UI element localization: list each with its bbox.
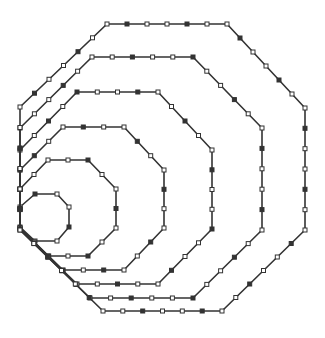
nested-octagons-diagram [0,0,325,338]
edge-marker [145,22,149,26]
edge-marker [251,50,255,54]
edge-marker [47,139,51,143]
edge-marker [62,64,66,68]
edge-marker [156,282,160,286]
edge-marker [55,239,59,243]
edge-marker [197,241,201,245]
octagon-outline [20,57,262,298]
edge-marker [114,207,118,211]
edge-marker [260,208,264,212]
edge-marker [136,90,140,94]
edge-marker [95,282,99,286]
octagon-outline [20,127,164,270]
edge-marker [105,22,109,26]
edge-marker [109,296,113,300]
edge-marker [205,22,209,26]
edge-marker [75,90,79,94]
edge-marker [18,126,22,130]
edge-marker [61,125,65,129]
edge-marker [67,205,71,209]
edge-marker [232,98,236,102]
edge-marker [170,105,174,109]
edge-marker [100,173,104,177]
edge-marker [76,69,80,73]
edge-marker [260,228,264,232]
edge-marker [32,112,36,116]
edge-marker [102,125,106,129]
edge-marker [46,158,50,162]
edge-marker [183,119,187,123]
edge-marker [76,50,80,54]
edge-marker [262,269,266,273]
edge-marker [100,240,104,244]
edge-marker [303,187,307,191]
edge-marker [87,296,91,300]
edge-marker [200,309,204,313]
edge-marker [32,242,36,246]
edge-marker [162,207,166,211]
edge-marker [114,226,118,230]
edge-marker [47,77,51,81]
edge-marker [219,83,223,87]
edge-marker [55,192,59,196]
edge-marker [122,125,126,129]
edge-marker [303,147,307,151]
edge-marker [149,240,153,244]
edge-marker [248,282,252,286]
edge-marker [180,309,184,313]
edge-marker [264,64,268,68]
edge-marker [149,154,153,158]
edge-marker [234,296,238,300]
edge-marker [135,139,139,143]
edge-marker [219,269,223,273]
edge-marker [18,228,22,232]
edge-marker [18,187,22,191]
edge-marker [86,158,90,162]
edge-marker [81,268,85,272]
edge-marker [91,36,95,40]
edge-marker [275,255,279,259]
edge-marker [18,167,22,171]
edge-marker [260,187,264,191]
edge-marker [162,187,166,191]
edge-marker [210,148,214,152]
edge-marker [191,55,195,59]
edge-marker [303,228,307,232]
edge-marker [232,255,236,259]
edge-marker [303,167,307,171]
edge-marker [225,22,229,26]
edge-marker [210,188,214,192]
edge-marker [47,98,51,102]
edge-marker [81,125,85,129]
edge-marker [165,22,169,26]
edge-marker [290,92,294,96]
edge-marker [66,254,70,258]
edge-marker [47,119,51,123]
edge-marker [183,255,187,259]
edge-marker [303,208,307,212]
edge-marker [162,168,166,172]
edge-marker [289,242,293,246]
edge-marker [67,225,71,229]
diagram-svg [0,0,325,338]
edge-marker [277,78,281,82]
edge-marker [150,296,154,300]
edge-marker [125,22,129,26]
edge-marker [156,90,160,94]
edge-marker [114,187,118,191]
edge-marker [246,242,250,246]
edge-marker [205,69,209,73]
edge-marker [260,126,264,130]
edge-marker [210,168,214,172]
edge-marker [33,91,37,95]
edge-marker [18,105,22,109]
edge-marker [116,282,120,286]
edge-marker [18,208,22,212]
edge-marker [130,55,134,59]
edge-marker [260,167,264,171]
edge-marker [90,55,94,59]
edge-marker [238,36,242,40]
edge-marker [161,309,165,313]
edge-marker [46,255,50,259]
edge-marker [121,309,125,313]
